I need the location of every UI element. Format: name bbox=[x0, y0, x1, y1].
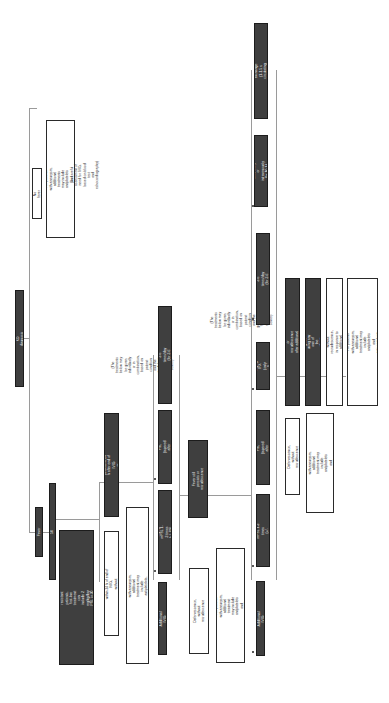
kd-diagnosis-box: KD diagnosis bbox=[15, 290, 24, 387]
third-line-item-ifx: 5 mg/kg IFX (only 1 dose) bbox=[256, 342, 270, 390]
response-bad-text: Fever still persists at 24 h after end o… bbox=[104, 454, 119, 476]
second-response-good-tx-box: Reduce ASA to 5 mg/kg/day For patients w… bbox=[216, 548, 245, 663]
trunk-line bbox=[29, 108, 30, 533]
response-split-line bbox=[99, 482, 100, 582]
ivig-to-response-line bbox=[56, 519, 99, 520]
bullet-dot bbox=[252, 388, 254, 390]
second-response-good-box: Defervescence, without recrudescence bbox=[189, 568, 209, 654]
third-line-item-plasma-exchange: 3-5 days plasma exchange (1-1.5 x circul… bbox=[254, 23, 268, 119]
third-line-item-uti: 5000 U/kg/UTI, 3-6 times/day (for 3-6 da… bbox=[256, 233, 270, 325]
initial-ivig-box: 2 g/kg IVIG + 30-50 mg/kg/day ASA bbox=[49, 483, 56, 580]
third-line-item-csa: 4 mg/kg/day CsA, orally or intravenously… bbox=[254, 135, 268, 207]
response-good-tx-box: Reduce ASA to 5 mg/kg/day For patients w… bbox=[126, 507, 149, 664]
risk-stratify-box: Stratify patients according to risk scor… bbox=[59, 530, 94, 665]
fourth-response-good-box: Defervescence, without recrudescence, in… bbox=[326, 278, 343, 406]
fourth-response-good-tx-box: Reduce ASA to 5 mg/kg/day For patients w… bbox=[347, 278, 378, 406]
second-line-bracket bbox=[153, 355, 154, 580]
bullet-dot bbox=[154, 570, 156, 572]
kd-diagnosis-label: KD diagnosis bbox=[15, 331, 23, 345]
no-fever-box: No fever bbox=[32, 168, 42, 219]
response-good-text: Fever resolves within 24 h of end of IVI… bbox=[104, 568, 119, 598]
response-good-tx-text: Reduce ASA to 5 mg/kg/day For patients w… bbox=[126, 574, 149, 597]
response-bad-box: Fever still persists at 24 h after end o… bbox=[104, 413, 119, 517]
note-2: (The treatments below may be given indiv… bbox=[232, 220, 252, 420]
bullet-dot bbox=[252, 565, 254, 567]
root-connector bbox=[23, 338, 30, 339]
second-response-bad-text: Fever still persists or recrudescence bbox=[192, 468, 205, 490]
bullet-dot bbox=[154, 478, 156, 480]
second-line-item-additional-ivig: Additional IVIG bbox=[158, 582, 167, 655]
second-line-item-psl: 2 mg/kg/day PSL (tapered after CRP norma… bbox=[158, 410, 172, 484]
bullet-dot bbox=[252, 318, 254, 320]
bullet-dot bbox=[252, 651, 254, 653]
third-line-bracket-right bbox=[276, 70, 277, 580]
no-fever-label: No fever bbox=[33, 190, 41, 198]
third-response-bad-tx-box: Additional therapy may be given using an… bbox=[305, 278, 321, 406]
third-line-item-mpsl: 10-30 mg/kg mPSL 1-3 times (+/- subseque… bbox=[256, 494, 270, 567]
bullet-dot bbox=[252, 205, 254, 207]
note-1: (The treatments below may be given indiv… bbox=[133, 265, 153, 465]
fever-label: Fever bbox=[37, 528, 41, 537]
no-fever-note: (Do careful assessment of need for IVIG,… bbox=[78, 125, 92, 225]
second-line-item-mpsl: 10-30 mg/kg mPSL 1-3 times (+/- PSL tape… bbox=[158, 490, 172, 574]
risk-stratify-text: Stratify patients according to risk scor… bbox=[59, 589, 94, 606]
second-line-bracket-right bbox=[179, 355, 180, 580]
third-response-good-box: Defervescence, without recrudescence bbox=[285, 418, 300, 495]
second-line-item-uti: 5000 U/kg/UTI, 3-6 times/day (for 3-6 da… bbox=[158, 306, 172, 404]
third-line-item-psl: 2 mg/kg/day PSL (tapered after CRP norma… bbox=[256, 410, 270, 485]
no-fever-connector bbox=[29, 108, 37, 109]
fever-box: Fever bbox=[35, 507, 43, 557]
initial-ivig-text: 2 g/kg IVIG + 30-50 mg/kg/day ASA bbox=[49, 524, 56, 540]
second-response-bad-box: Fever still persists or recrudescence bbox=[188, 440, 208, 518]
third-response-good-tx-box: Reduce ASA to 5 mg/kg/day For patients w… bbox=[306, 413, 334, 513]
third-line-item-additional-ivig: Additional IVIG bbox=[256, 581, 265, 656]
third-response-bad-box: Fever persists or recrudescence after ad… bbox=[285, 278, 300, 406]
response-good-box: Fever resolves within 24 h of end of IVI… bbox=[104, 531, 119, 636]
